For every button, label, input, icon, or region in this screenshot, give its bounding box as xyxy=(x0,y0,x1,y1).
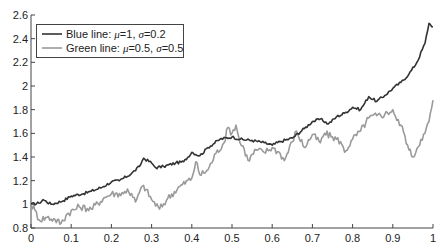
x-tick-label: 0.9 xyxy=(385,232,400,244)
y-tick-label: 1.6 xyxy=(13,127,28,139)
x-tick-label: 0.7 xyxy=(305,232,320,244)
y-tick-label: 1.8 xyxy=(13,104,28,116)
x-tick-label: 0.5 xyxy=(224,232,239,244)
x-ticks: 00.10.20.30.40.50.60.70.80.91 xyxy=(28,224,436,244)
x-tick-label: 0 xyxy=(28,232,34,244)
y-tick-label: 1 xyxy=(22,198,28,210)
x-tick-label: 0.4 xyxy=(184,232,199,244)
series-green-line xyxy=(31,100,433,224)
legend-label-green: Green line: μ=0.5, σ=0.5 xyxy=(66,42,183,54)
x-tick-label: 0.3 xyxy=(144,232,159,244)
y-tick-label: 1.4 xyxy=(13,151,28,163)
legend: Blue line: μ=1, σ=0.2 Green line: μ=0.5,… xyxy=(37,25,184,58)
x-tick-label: 0.2 xyxy=(104,232,119,244)
y-ticks: 0.811.21.41.61.822.22.42.6 xyxy=(13,9,35,234)
y-tick-label: 0.8 xyxy=(13,222,28,234)
y-tick-label: 2.4 xyxy=(13,33,28,45)
legend-label-blue: Blue line: μ=1, σ=0.2 xyxy=(66,28,166,40)
y-tick-label: 1.2 xyxy=(13,175,28,187)
y-tick-label: 2.6 xyxy=(13,9,28,21)
x-tick-label: 0.6 xyxy=(265,232,280,244)
x-tick-label: 0.8 xyxy=(345,232,360,244)
line-chart: 00.10.20.30.40.50.60.70.80.91 0.811.21.4… xyxy=(0,0,448,252)
x-tick-label: 0.1 xyxy=(64,232,79,244)
x-tick-label: 1 xyxy=(430,232,436,244)
y-tick-label: 2 xyxy=(22,80,28,92)
y-tick-label: 2.2 xyxy=(13,56,28,68)
